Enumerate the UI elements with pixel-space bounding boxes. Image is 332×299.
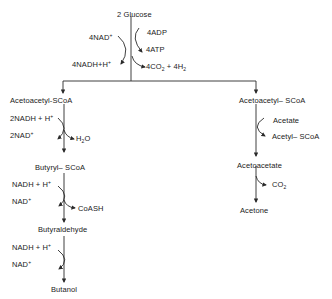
node-acetoacetyl-scoa-right: Acetoacetyl– SCoA [239,96,305,105]
step2-coash-out: CoASH [78,204,104,213]
atp-out: 4ATP [146,45,165,54]
node-acetone: Acetone [240,206,268,215]
step1-water-out: H2O [76,134,90,143]
step1-nadh-in: 2NADH + H+ [10,114,53,123]
step3-nad-out: NAD+ [12,260,31,269]
node-butyraldehyde: Butyraldehyde [38,225,87,234]
step2-nadh-in: NADH + H+ [12,180,51,189]
pathway-arrows [0,0,332,299]
step-acetyl-scoa-out: Acetyl– SCoA [272,132,319,141]
step3-nadh-in: NADH + H+ [12,243,51,252]
step-acetate-in: Acetate [273,116,299,125]
step-co2-out: CO2 [272,180,286,189]
cofactor-nadh-out: 4NADH+H+ [72,60,111,69]
adp-in: 4ADP [147,28,167,37]
step2-nad-out: NAD+ [12,197,31,206]
node-acetoacetyl-scoa-left: Acetoacetyl-SCoA [10,96,72,105]
node-butanol: Butanol [51,285,77,294]
co2-h2-out: 4CO2 + 4H2 [146,62,186,71]
node-acetoacetate: Acetoacetate [237,161,282,170]
cofactor-nad-in: 4NAD+ [89,33,112,42]
node-butyryl-scoa: Butyryl– SCoA [35,163,85,172]
step1-nad-out: 2NAD+ [10,131,33,140]
substrate-glucose: 2 Glucose [117,10,152,19]
